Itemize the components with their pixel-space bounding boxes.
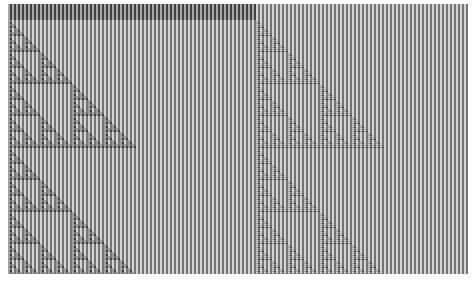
cellular-automaton-canvas bbox=[8, 4, 468, 274]
